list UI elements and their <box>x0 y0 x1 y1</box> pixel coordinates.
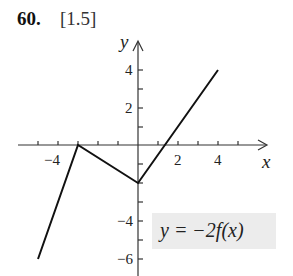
x-axis <box>18 140 267 150</box>
y-tick-label: −6 <box>117 251 133 267</box>
y-tick-label: 2 <box>125 100 133 116</box>
x-tick-label: −4 <box>44 152 60 168</box>
y-axis <box>133 41 143 276</box>
x-tick-label: 4 <box>214 152 222 168</box>
y-tick-label: −4 <box>117 213 133 229</box>
y-axis-label: y <box>118 31 129 52</box>
equation-label: y = −2f(x) <box>160 219 244 242</box>
x-axis-label: x <box>261 151 271 172</box>
y-tick-label: 4 <box>125 62 133 78</box>
x-tick-label: 2 <box>174 152 182 168</box>
